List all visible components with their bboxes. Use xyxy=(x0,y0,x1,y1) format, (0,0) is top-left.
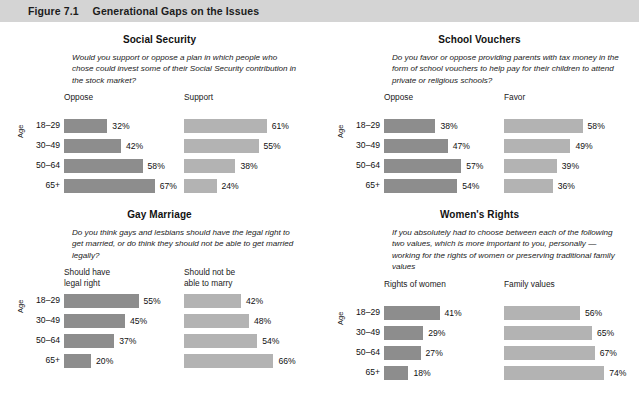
panel-question: Do you think gays and lesbians should ha… xyxy=(0,227,319,261)
bar-row: 18–2932%61% xyxy=(0,118,319,134)
bar xyxy=(64,119,107,133)
series-header-0: Oppose xyxy=(64,92,93,102)
bar-group-1: 66% xyxy=(184,354,296,368)
age-group-label: 50–64 xyxy=(0,335,60,345)
bar-value-label: 37% xyxy=(119,336,136,346)
bar-group-0: 41% xyxy=(384,306,462,320)
bar-group-1: 61% xyxy=(184,119,289,133)
panel-title: School Vouchers xyxy=(320,34,639,45)
bar-value-label: 36% xyxy=(558,181,575,191)
bar xyxy=(184,139,259,153)
bar-group-0: 18% xyxy=(384,366,431,380)
bar-row: 50–6427%67% xyxy=(320,345,639,361)
bar-row: 30–4947%49% xyxy=(320,138,639,154)
bar xyxy=(384,366,408,380)
bar-row: 30–4929%65% xyxy=(320,325,639,341)
bar-row: 50–6458%38% xyxy=(0,158,319,174)
panel-title: Gay Marriage xyxy=(0,209,319,220)
bar-value-label: 38% xyxy=(440,121,457,131)
bar-row: 18–2938%58% xyxy=(320,118,639,134)
age-group-label: 18–29 xyxy=(0,120,60,130)
bar-group-0: 32% xyxy=(64,119,130,133)
bar-value-label: 58% xyxy=(588,121,605,131)
bar-value-label: 42% xyxy=(126,141,143,151)
bar xyxy=(384,119,435,133)
bar-value-label: 29% xyxy=(428,328,445,338)
age-group-label: 65+ xyxy=(320,367,380,377)
bar-group-1: 54% xyxy=(184,334,279,348)
bar-row: 65+67%24% xyxy=(0,178,319,194)
bar-group-1: 58% xyxy=(504,119,605,133)
bar-group-0: 20% xyxy=(64,354,113,368)
series-header-0: Should have legal right xyxy=(64,267,110,287)
bar xyxy=(384,326,423,340)
bar xyxy=(184,119,267,133)
bar-row: 30–4942%55% xyxy=(0,138,319,154)
bar xyxy=(64,354,91,368)
bar-group-1: 42% xyxy=(184,294,263,308)
panel-title: Women's Rights xyxy=(320,209,639,220)
chart-panel-school-vouchers: School Vouchers Do you favor or oppose p… xyxy=(320,22,639,209)
age-group-label: 30–49 xyxy=(0,315,60,325)
age-group-label: 65+ xyxy=(0,180,60,190)
age-group-label: 65+ xyxy=(0,355,60,365)
bar-group-1: 24% xyxy=(184,179,239,193)
bar-row: 50–6437%54% xyxy=(0,333,319,349)
bar xyxy=(64,334,114,348)
figure-header-bar: Figure 7.1 Generational Gaps on the Issu… xyxy=(0,0,639,22)
series-header-1: Should not be able to marry xyxy=(184,267,235,287)
bar-group-1: 74% xyxy=(504,366,626,380)
age-group-label: 50–64 xyxy=(320,160,380,170)
bar-group-1: 65% xyxy=(504,326,614,340)
bar-value-label: 18% xyxy=(413,368,430,378)
series-header-0: Oppose xyxy=(384,92,413,102)
bar-row: 50–6457%39% xyxy=(320,158,639,174)
bar-value-label: 20% xyxy=(96,356,113,366)
bar-group-0: 38% xyxy=(384,119,458,133)
bar-row: 65+20%66% xyxy=(0,353,319,369)
bar-value-label: 67% xyxy=(600,348,617,358)
bar xyxy=(384,139,448,153)
age-group-label: 18–29 xyxy=(0,295,60,305)
panel-question: Do you favor or oppose providing parents… xyxy=(320,52,639,86)
bar-value-label: 58% xyxy=(148,161,165,171)
bar xyxy=(384,306,440,320)
chart-panel-grid: Social Security Would you support or opp… xyxy=(0,22,639,396)
bar-group-1: 55% xyxy=(184,139,281,153)
bar-group-0: 54% xyxy=(384,179,479,193)
bar xyxy=(64,314,125,328)
bar-value-label: 42% xyxy=(246,296,263,306)
bar xyxy=(504,139,570,153)
bar xyxy=(504,306,580,320)
age-group-label: 30–49 xyxy=(0,140,60,150)
bar-value-label: 57% xyxy=(466,161,483,171)
bar xyxy=(184,159,235,173)
age-group-label: 18–29 xyxy=(320,120,380,130)
bar-value-label: 38% xyxy=(240,161,257,171)
chart-panel-social-security: Social Security Would you support or opp… xyxy=(0,22,319,209)
bar xyxy=(504,346,595,360)
bar xyxy=(184,314,249,328)
bar-group-0: 57% xyxy=(384,159,483,173)
bar xyxy=(64,294,139,308)
bar-group-0: 55% xyxy=(64,294,161,308)
bar-chart: Age Oppose Support 18–2932%61%30–4942%55… xyxy=(0,92,319,204)
bar-chart: Age Should have legal right Should not b… xyxy=(0,267,319,379)
bar-value-label: 55% xyxy=(144,296,161,306)
bar xyxy=(384,179,457,193)
bar-value-label: 55% xyxy=(264,141,281,151)
chart-panel-womens-rights: Women's Rights If you absolutely had to … xyxy=(320,197,639,384)
figure-number: Figure 7.1 xyxy=(28,5,79,17)
bar-group-0: 27% xyxy=(384,346,443,360)
bar-row: 30–4945%48% xyxy=(0,313,319,329)
bar-chart: Age Oppose Favor 18–2938%58%30–4947%49%5… xyxy=(320,92,639,204)
bar-value-label: 54% xyxy=(462,181,479,191)
bar-value-label: 65% xyxy=(597,328,614,338)
bar-group-1: 38% xyxy=(184,159,258,173)
series-header-1: Favor xyxy=(504,92,525,102)
bar-value-label: 27% xyxy=(426,348,443,358)
bar-value-label: 67% xyxy=(160,181,177,191)
bar-value-label: 66% xyxy=(278,356,295,366)
panel-title: Social Security xyxy=(0,34,319,45)
bar-value-label: 47% xyxy=(453,141,470,151)
